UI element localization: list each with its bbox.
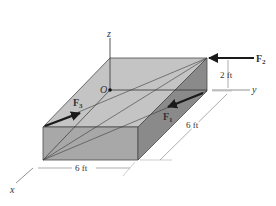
x-axis-label: x (9, 184, 15, 195)
origin-label: O (100, 84, 107, 95)
x-axis (16, 168, 33, 183)
y-axis-label: y (251, 84, 257, 95)
dim-6ft-width-label: 6 ft (75, 163, 88, 173)
box-force-diagram: z O y x F2 2 ft F1 F3 6 ft 6 ft 6 ft (0, 0, 276, 206)
origin-point (108, 88, 112, 92)
dim-6ft-depth-label: 6 ft (186, 120, 199, 130)
dim-2ft-label: 2 ft (220, 70, 233, 80)
box-front-face (43, 127, 138, 160)
z-axis-label: z (106, 28, 111, 39)
force-f2-label: F2 (256, 53, 266, 66)
dim-extension (123, 162, 135, 176)
